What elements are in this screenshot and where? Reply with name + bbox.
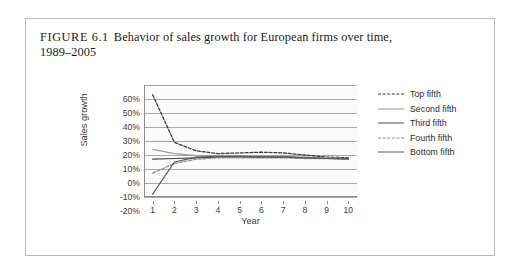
legend-swatch-icon (378, 90, 404, 98)
legend-label: Third fifth (410, 118, 447, 128)
x-axis-tick-mark (348, 201, 349, 204)
x-axis-tick-mark (218, 201, 219, 204)
legend-label: Fourth fifth (410, 133, 452, 143)
figure-title-line1: Behavior of sales growth for European fi… (114, 30, 392, 44)
y-axis-tick-label: -20% (120, 206, 140, 216)
y-axis-tick-labels: 60%50%40%30%20%10%0%-10%-20% (96, 85, 140, 197)
x-axis-tick-label: 7 (281, 205, 286, 215)
legend-item: Top fifth (378, 87, 498, 102)
x-axis-tick-mark (174, 201, 175, 204)
y-axis-tick-label: 10% (123, 164, 140, 174)
chart: Sales growth 60%50%40%30%20%10%0%-10%-20… (62, 71, 477, 241)
series-lines (144, 85, 357, 197)
x-axis-tick-label: 5 (237, 205, 242, 215)
x-axis-tick-label: 10 (344, 205, 354, 215)
y-axis-tick-label: -10% (120, 192, 140, 202)
x-axis-title: Year (144, 216, 357, 226)
y-axis-tick-label: 40% (123, 122, 140, 132)
x-axis-tick-label: 9 (324, 205, 329, 215)
gridline (144, 197, 357, 198)
x-axis-tick-mark (240, 201, 241, 204)
legend-item: Second fifth (378, 102, 498, 117)
x-axis-tick-labels: 12345678910 (144, 201, 357, 215)
legend-label: Bottom fifth (410, 147, 455, 157)
legend-label: Top fifth (410, 89, 441, 99)
figure-label: FIGURE 6.1 (40, 30, 109, 44)
figure-caption: FIGURE 6.1Behavior of sales growth for E… (40, 30, 470, 60)
x-axis-tick-label: 3 (194, 205, 199, 215)
x-axis-tick-label: 8 (302, 205, 307, 215)
x-axis-tick-mark (196, 201, 197, 204)
x-axis-tick-mark (305, 201, 306, 204)
legend-swatch-icon (378, 119, 404, 127)
x-axis-tick-mark (283, 201, 284, 204)
y-axis-title: Sales growth (79, 64, 89, 176)
legend-swatch-line (378, 123, 404, 124)
x-axis-line (144, 196, 357, 197)
y-axis-tick-label: 50% (123, 108, 140, 118)
x-axis-tick-label: 2 (172, 205, 177, 215)
legend-swatch-line (378, 108, 404, 109)
legend-item: Third fifth (378, 116, 498, 131)
figure-title-line2: 1989–2005 (40, 45, 96, 59)
legend-item: Bottom fifth (378, 145, 498, 160)
legend-label: Second fifth (410, 104, 456, 114)
y-axis-tick-label: 60% (123, 94, 140, 104)
legend-swatch-icon (378, 134, 404, 142)
legend-swatch-icon (378, 148, 404, 156)
legend-swatch-line (378, 94, 404, 95)
series-line (153, 95, 349, 158)
legend: Top fifthSecond fifthThird fifthFourth f… (378, 87, 498, 160)
y-axis-tick-label: 0% (128, 178, 140, 188)
y-axis-line (144, 85, 145, 197)
x-axis-tick-label: 4 (216, 205, 221, 215)
legend-swatch-line (378, 152, 404, 153)
legend-swatch-line (378, 137, 404, 138)
legend-item: Fourth fifth (378, 131, 498, 146)
x-axis-tick-mark (261, 201, 262, 204)
x-axis-tick-mark (153, 201, 154, 204)
y-axis-tick-label: 30% (123, 136, 140, 146)
x-axis-tick-label: 6 (259, 205, 264, 215)
y-axis-tick-label: 20% (123, 150, 140, 160)
plot-area (144, 85, 357, 197)
x-axis-tick-label: 1 (150, 205, 155, 215)
legend-swatch-icon (378, 105, 404, 113)
figure-frame: FIGURE 6.1Behavior of sales growth for E… (25, 18, 495, 256)
x-axis-tick-mark (327, 201, 328, 204)
